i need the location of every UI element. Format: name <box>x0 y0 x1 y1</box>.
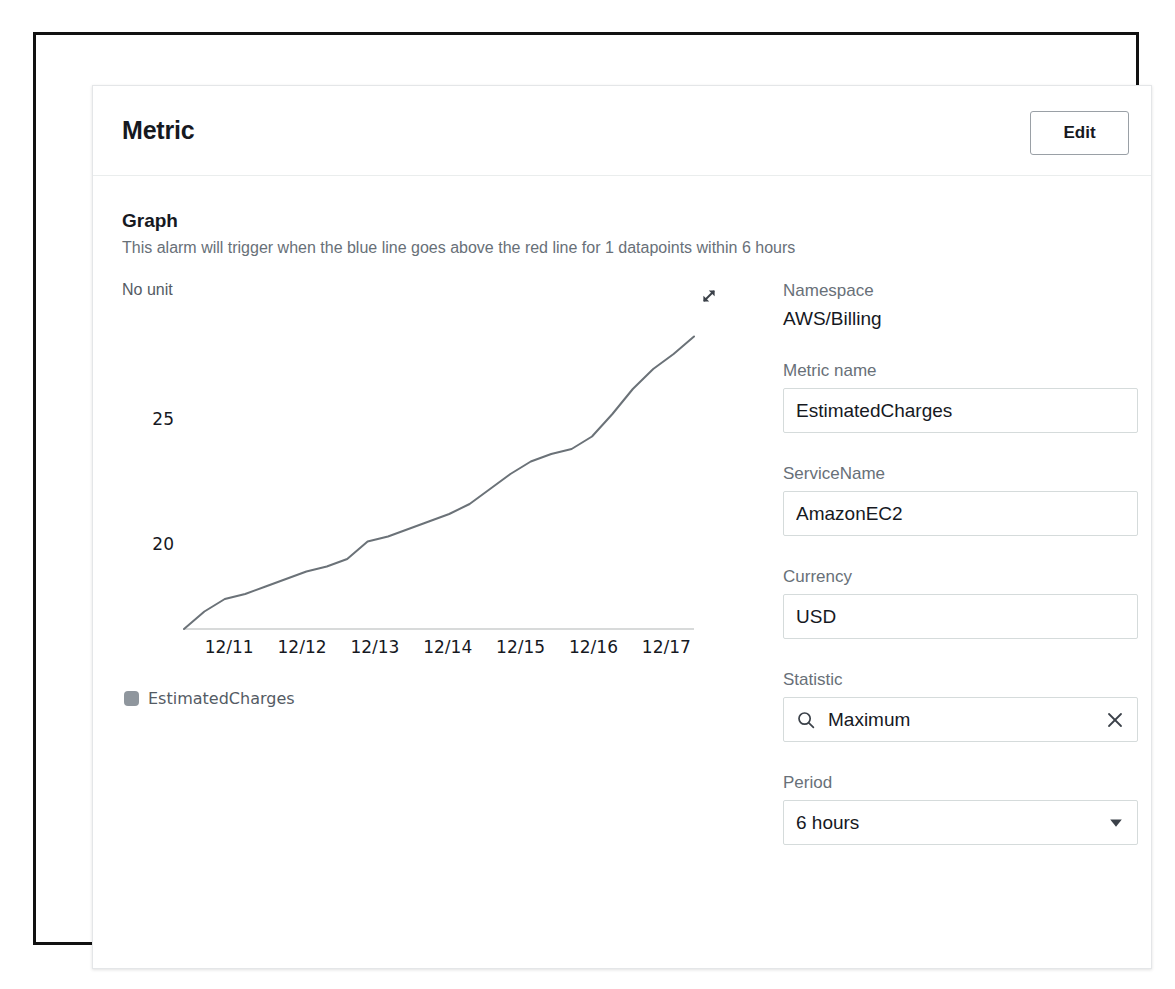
field-value-input[interactable] <box>828 709 1105 731</box>
chart-unit-label: No unit <box>122 281 173 299</box>
field-input-box[interactable] <box>783 388 1138 433</box>
field-label: Period <box>783 773 1138 793</box>
legend-label-estimatedcharges: EstimatedCharges <box>148 689 295 708</box>
card-body: Graph This alarm will trigger when the b… <box>93 176 1151 968</box>
field-servicename: ServiceName <box>783 464 1138 536</box>
graph-section-heading: Graph <box>122 210 178 232</box>
x-tick-label: 12/12 <box>278 637 327 654</box>
graph-section-description: This alarm will trigger when the blue li… <box>122 239 795 257</box>
screenshot-frame: Metric Edit Graph This alarm will trigge… <box>33 32 1139 945</box>
field-input-box[interactable] <box>783 697 1138 742</box>
field-period: Period <box>783 773 1138 845</box>
close-icon[interactable] <box>1105 710 1125 730</box>
x-tick-label: 12/14 <box>423 637 472 654</box>
chart-legend: EstimatedCharges <box>124 689 295 708</box>
chart-panel: No unit 2025 <box>122 281 732 741</box>
x-tick-label: 12/11 <box>205 637 254 654</box>
field-value-input[interactable] <box>796 606 1125 628</box>
field-label: Namespace <box>783 281 1138 301</box>
field-value-input[interactable] <box>796 503 1125 525</box>
field-label: ServiceName <box>783 464 1138 484</box>
field-value-input[interactable] <box>796 812 1107 834</box>
field-metric-name: Metric name <box>783 361 1138 433</box>
field-statistic: Statistic <box>783 670 1138 742</box>
x-tick-label: 12/17 <box>642 637 691 654</box>
x-tick-label: 12/15 <box>496 637 545 654</box>
line-chart: 2025 12/1112/1212/1312/1412/1512/1612/17 <box>122 299 732 654</box>
field-label: Metric name <box>783 361 1138 381</box>
y-tick-label: 20 <box>152 534 174 554</box>
metric-card: Metric Edit Graph This alarm will trigge… <box>92 85 1152 969</box>
field-currency: Currency <box>783 567 1138 639</box>
search-icon <box>796 710 816 730</box>
field-label: Currency <box>783 567 1138 587</box>
field-value: AWS/Billing <box>783 308 1138 330</box>
chart-y-ticks: 2025 <box>152 409 174 554</box>
x-tick-label: 12/13 <box>350 637 399 654</box>
field-input-box[interactable] <box>783 594 1138 639</box>
chart-series-line <box>184 337 694 630</box>
field-value-input[interactable] <box>796 400 1125 422</box>
chart-plot-area: 2025 12/1112/1212/1312/1412/1512/1612/17 <box>122 299 732 654</box>
field-input-box[interactable] <box>783 800 1138 845</box>
field-namespace: NamespaceAWS/Billing <box>783 281 1138 330</box>
legend-color-swatch <box>124 691 139 706</box>
chart-x-ticks: 12/1112/1212/1312/1412/1512/1612/17 <box>205 637 691 654</box>
field-label: Statistic <box>783 670 1138 690</box>
card-header: Metric Edit <box>93 86 1151 176</box>
metric-detail-form: NamespaceAWS/BillingMetric nameServiceNa… <box>783 281 1138 845</box>
field-input-box[interactable] <box>783 491 1138 536</box>
edit-button[interactable]: Edit <box>1030 111 1129 155</box>
x-tick-label: 12/16 <box>569 637 618 654</box>
caret-down-icon[interactable] <box>1107 814 1125 832</box>
page-title: Metric <box>122 116 194 145</box>
y-tick-label: 25 <box>152 409 174 429</box>
